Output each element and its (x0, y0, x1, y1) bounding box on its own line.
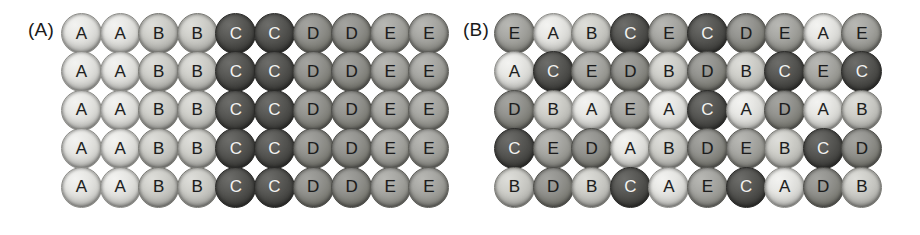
sphere-e: E (533, 128, 574, 169)
sphere-d: D (293, 167, 334, 208)
panel-b-sphere-grid: EABCECDEAEACEDBDBCECDBAEACADABCEDABDEBCD… (495, 14, 881, 206)
sphere-d: D (726, 13, 767, 54)
sphere-label: E (509, 24, 520, 44)
sphere-label: B (663, 139, 674, 159)
sphere-b: B (841, 167, 882, 208)
sphere-label: D (346, 24, 358, 44)
sphere-e: E (370, 90, 411, 131)
sphere-label: D (586, 139, 598, 159)
sphere-d: D (687, 51, 728, 92)
sphere-label: E (385, 100, 396, 120)
sphere-e: E (408, 90, 449, 131)
sphere-label: E (423, 24, 434, 44)
sphere-label: B (192, 139, 203, 159)
sphere-b: B (764, 128, 805, 169)
sphere-label: B (586, 24, 597, 44)
sphere-label: A (114, 177, 125, 197)
sphere-c: C (687, 13, 728, 54)
sphere-label: C (268, 177, 280, 197)
sphere-c: C (254, 13, 295, 54)
sphere-label: E (818, 62, 829, 82)
sphere-label: D (307, 62, 319, 82)
sphere-a: A (61, 13, 102, 54)
sphere-c: C (215, 128, 256, 169)
sphere-d: D (494, 90, 535, 131)
sphere-label: B (586, 177, 597, 197)
sphere-label: D (701, 62, 713, 82)
sphere-label: D (307, 24, 319, 44)
sphere-label: C (779, 62, 791, 82)
sphere-a: A (610, 128, 651, 169)
sphere-c: C (254, 51, 295, 92)
sphere-label: D (624, 62, 636, 82)
sphere-c: C (803, 128, 844, 169)
panel-b-label: (B) (463, 19, 489, 41)
sphere-label: A (76, 62, 87, 82)
sphere-label: A (663, 177, 674, 197)
sphere-e: E (803, 51, 844, 92)
sphere-c: C (215, 13, 256, 54)
sphere-label: A (586, 100, 597, 120)
sphere-d: D (293, 128, 334, 169)
sphere-label: D (307, 100, 319, 120)
sphere-label: B (856, 177, 867, 197)
sphere-label: A (509, 62, 520, 82)
sphere-d: D (293, 51, 334, 92)
sphere-d: D (610, 51, 651, 92)
sphere-label: E (779, 24, 790, 44)
sphere-a: A (764, 167, 805, 208)
sphere-e: E (370, 13, 411, 54)
sphere-label: C (268, 139, 280, 159)
sphere-d: D (803, 167, 844, 208)
sphere-label: C (268, 100, 280, 120)
sphere-e: E (370, 51, 411, 92)
sphere-label: C (268, 24, 280, 44)
sphere-b: B (138, 13, 179, 54)
panel-b: (B) EABCECDEAEACEDBDBCECDBAEACADABCEDABD… (460, 0, 920, 235)
sphere-c: C (610, 167, 651, 208)
sphere-label: C (230, 62, 242, 82)
sphere-e: E (408, 13, 449, 54)
sphere-b: B (138, 90, 179, 131)
sphere-label: C (624, 24, 636, 44)
sphere-c: C (726, 167, 767, 208)
sphere-label: E (547, 139, 558, 159)
sphere-d: D (331, 167, 372, 208)
sphere-a: A (571, 90, 612, 131)
sphere-label: E (385, 177, 396, 197)
sphere-label: D (346, 177, 358, 197)
sphere-label: E (385, 62, 396, 82)
sphere-e: E (408, 128, 449, 169)
sphere-label: B (192, 100, 203, 120)
sphere-b: B (494, 167, 535, 208)
panel-a-sphere-grid: AABBCCDDEEAABBCCDDEEAABBCCDDEEAABBCCDDEE… (62, 14, 448, 206)
sphere-a: A (726, 90, 767, 131)
sphere-label: D (508, 100, 520, 120)
sphere-e: E (408, 167, 449, 208)
sphere-label: D (701, 139, 713, 159)
sphere-c: C (215, 167, 256, 208)
sphere-e: E (648, 13, 689, 54)
sphere-b: B (138, 167, 179, 208)
sphere-label: C (701, 24, 713, 44)
sphere-label: B (509, 177, 520, 197)
sphere-label: C (740, 177, 752, 197)
sphere-label: A (779, 177, 790, 197)
sphere-e: E (687, 167, 728, 208)
sphere-label: B (153, 139, 164, 159)
sphere-label: C (230, 139, 242, 159)
sphere-label: E (423, 100, 434, 120)
sphere-label: E (856, 24, 867, 44)
sphere-label: E (423, 177, 434, 197)
sphere-a: A (100, 128, 141, 169)
sphere-label: C (268, 62, 280, 82)
sphere-e: E (494, 13, 535, 54)
sphere-label: A (114, 24, 125, 44)
sphere-a: A (61, 90, 102, 131)
sphere-label: B (740, 62, 751, 82)
sphere-a: A (100, 167, 141, 208)
sphere-label: E (702, 177, 713, 197)
sphere-b: B (571, 167, 612, 208)
sphere-label: D (346, 62, 358, 82)
sphere-c: C (764, 51, 805, 92)
